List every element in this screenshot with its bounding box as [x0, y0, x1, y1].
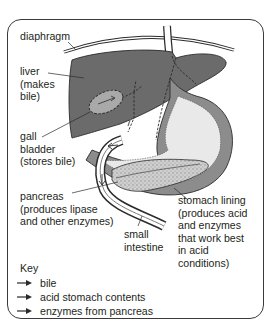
arrow-right-icon — [16, 293, 34, 301]
label-gall-bladder: gall bladder (stores bile) — [20, 130, 75, 168]
key-item-bile: bile — [16, 277, 57, 289]
label-small-intestine: small intestine — [124, 228, 163, 253]
label-pancreas: pancreas (produces lipase and other enzy… — [20, 190, 114, 228]
label-diaphragm: diaphragm — [20, 30, 70, 43]
label-stomach-lining: stomach lining (produces acid and enzyme… — [178, 194, 248, 269]
key-label-bile: bile — [40, 277, 57, 289]
key-label-acid-stomach-contents: acid stomach contents — [40, 291, 145, 303]
key-item-acid-stomach-contents: acid stomach contents — [16, 291, 145, 303]
key-label-enzymes-from-pancreas: enzymes from pancreas — [40, 305, 153, 317]
arrow-right-icon — [16, 307, 34, 315]
key-title: Key — [20, 262, 38, 275]
label-liver: liver (makes bile) — [20, 65, 55, 103]
arrow-right-icon — [16, 279, 34, 287]
key-item-enzymes-from-pancreas: enzymes from pancreas — [16, 305, 153, 317]
